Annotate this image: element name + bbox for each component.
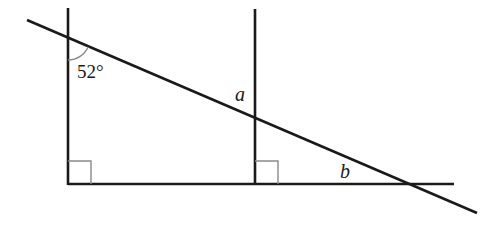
angle-arc-52 bbox=[68, 47, 88, 60]
angle-label-52: 52° bbox=[77, 61, 104, 82]
angle-label-a: a bbox=[235, 83, 245, 105]
angle-label-b: b bbox=[340, 160, 350, 182]
right-angle-marker-left bbox=[68, 161, 91, 184]
right-angle-marker-middle bbox=[255, 161, 278, 184]
geometry-diagram: 52° a b bbox=[0, 0, 492, 229]
